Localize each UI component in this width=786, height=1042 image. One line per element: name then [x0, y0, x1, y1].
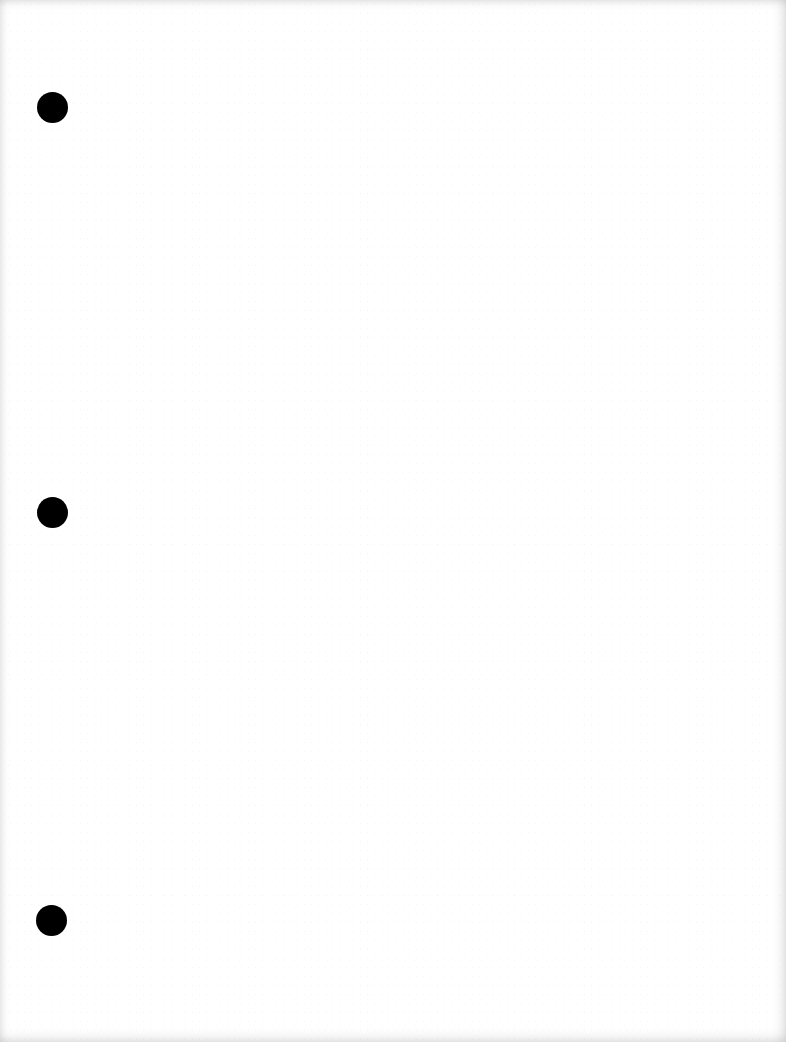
- hole-punch-top: [37, 92, 68, 123]
- hole-punch-middle: [37, 497, 68, 528]
- scan-noise-texture: [0, 0, 786, 1042]
- scanned-page: [0, 0, 786, 1042]
- hole-punch-bottom: [36, 905, 67, 936]
